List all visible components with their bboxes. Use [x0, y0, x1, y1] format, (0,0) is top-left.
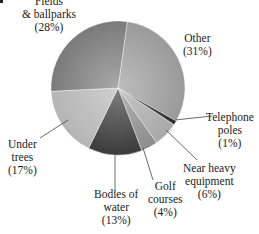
label-telephone-poles: Telephone poles (1%)	[206, 111, 254, 150]
label-bodies-of-water: Bodies of water (13%)	[94, 188, 138, 227]
leader-heavy	[166, 130, 197, 160]
label-fields-ballparks: Fields & ballparks (28%)	[22, 0, 76, 34]
leader-golf	[143, 148, 153, 180]
label-golf-courses: Golf courses (4%)	[148, 180, 183, 219]
label-near-heavy-equipment: Near heavy equipment (6%)	[183, 162, 236, 201]
label-under-trees: Under trees (17%)	[8, 138, 37, 177]
label-other: Other (31%)	[183, 32, 212, 58]
leader-trees	[40, 120, 68, 138]
